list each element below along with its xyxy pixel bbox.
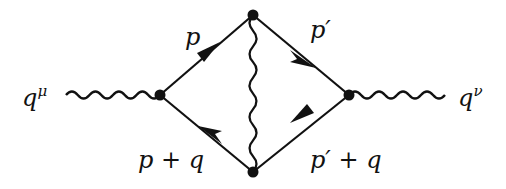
feynman-diagram: qμ qν p p′ p + q p′ + q bbox=[0, 0, 506, 189]
photon-internal bbox=[250, 15, 257, 172]
arrow-icon-p-prime-plus-q bbox=[290, 104, 314, 123]
vertex-right bbox=[344, 90, 355, 101]
label-p-plus-q: p + q bbox=[138, 148, 204, 172]
label-q-nu: qν bbox=[458, 84, 483, 110]
label-q-mu: qμ bbox=[22, 84, 47, 110]
photon-right-external bbox=[349, 92, 445, 99]
label-p-prime-plus-q: p′ + q bbox=[310, 148, 382, 172]
label-p-prime: p′ bbox=[310, 18, 331, 42]
photon-left-external bbox=[66, 92, 160, 99]
fermion-line-p-prime bbox=[253, 15, 349, 95]
arrow-icon-p-plus-q bbox=[198, 126, 222, 144]
diagram-canvas bbox=[0, 0, 506, 189]
vertex-left bbox=[155, 90, 166, 101]
vertex-bottom bbox=[248, 167, 259, 178]
label-p: p bbox=[185, 25, 200, 49]
vertex-top bbox=[248, 10, 259, 21]
